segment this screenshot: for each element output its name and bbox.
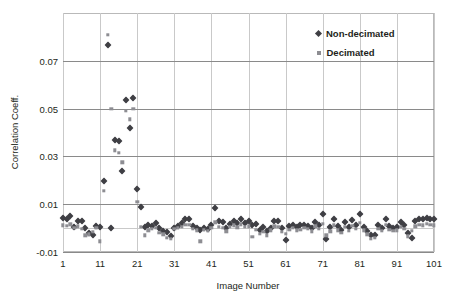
data-point — [403, 227, 406, 230]
data-point — [343, 225, 346, 228]
data-point — [317, 227, 320, 230]
data-point — [195, 229, 198, 232]
data-point — [269, 229, 272, 232]
vertical-gridline — [137, 13, 138, 252]
data-point — [143, 234, 146, 237]
horizontal-gridline — [63, 252, 434, 253]
scatter-chart: Correlation Coeff. Image Number -0.010.0… — [0, 0, 460, 301]
y-tick-label: 0.05 — [40, 103, 59, 114]
data-point — [251, 235, 254, 238]
data-point — [410, 229, 413, 232]
data-point — [139, 225, 142, 228]
data-point — [106, 33, 109, 36]
data-point — [358, 221, 361, 224]
data-point — [380, 229, 383, 232]
x-tick-label: 101 — [426, 258, 442, 269]
data-point — [332, 224, 335, 227]
vertical-gridline — [286, 13, 287, 252]
data-point — [254, 228, 257, 231]
data-point — [265, 234, 268, 237]
y-axis-title: Correlation Coeff. — [9, 95, 20, 169]
horizontal-gridline — [63, 204, 434, 205]
data-point — [354, 227, 357, 230]
y-tick-label: 0.07 — [40, 55, 59, 66]
data-point — [373, 236, 376, 239]
vertical-gridline — [174, 13, 175, 252]
data-point — [95, 226, 98, 229]
legend-label: Decimated — [327, 47, 375, 58]
data-point — [310, 230, 313, 233]
data-point — [169, 237, 172, 240]
data-point — [199, 240, 202, 243]
x-axis-title: Image Number — [217, 280, 280, 291]
x-tick-label: 71 — [317, 258, 328, 269]
data-point — [154, 226, 157, 229]
data-point — [347, 229, 350, 232]
vertical-gridline — [100, 13, 101, 252]
data-point — [276, 225, 279, 228]
legend-item-non-decimated[interactable]: Non-decimated — [316, 24, 395, 43]
data-point — [91, 230, 94, 233]
data-point — [247, 224, 250, 227]
data-point — [121, 161, 124, 164]
x-tick-label: 61 — [280, 258, 291, 269]
square-marker-icon — [317, 51, 321, 55]
data-point — [321, 222, 324, 225]
data-point — [102, 189, 105, 192]
data-point — [406, 235, 409, 238]
data-point — [132, 107, 135, 110]
x-tick-label: 51 — [243, 258, 254, 269]
data-point — [98, 240, 101, 243]
data-point — [124, 109, 127, 112]
data-point — [210, 226, 213, 229]
data-point — [395, 229, 398, 232]
data-point — [340, 231, 343, 234]
data-point — [325, 234, 328, 237]
chart-legend: Non-decimated Decimated — [316, 24, 395, 62]
y-tick-label: -0.01 — [36, 247, 58, 258]
legend-item-decimated[interactable]: Decimated — [316, 43, 395, 62]
data-point — [366, 233, 369, 236]
x-tick-label: 21 — [132, 258, 143, 269]
horizontal-gridline — [63, 109, 434, 110]
y-tick-label: 0.03 — [40, 151, 59, 162]
data-point — [384, 223, 387, 226]
data-point — [110, 107, 113, 110]
x-tick-label: 31 — [169, 258, 180, 269]
horizontal-gridline — [63, 156, 434, 157]
x-tick-label: 11 — [95, 258, 105, 269]
x-tick-label: 1 — [60, 258, 65, 269]
data-point — [80, 227, 83, 230]
data-point — [225, 230, 228, 233]
data-point — [284, 232, 287, 235]
vertical-gridline — [397, 13, 398, 252]
data-point — [128, 118, 131, 121]
diamond-marker-icon — [315, 30, 322, 37]
data-point — [328, 230, 331, 233]
legend-label: Non-decimated — [326, 28, 395, 39]
x-tick-label: 81 — [355, 258, 366, 269]
data-point — [432, 224, 435, 227]
vertical-gridline — [211, 13, 212, 252]
data-point — [213, 221, 216, 224]
x-tick-label: 91 — [392, 258, 403, 269]
x-tick-label: 41 — [206, 258, 217, 269]
data-point — [135, 200, 138, 203]
data-point — [117, 151, 120, 154]
vertical-gridline — [249, 13, 250, 252]
y-tick-label: 0.01 — [40, 199, 59, 210]
